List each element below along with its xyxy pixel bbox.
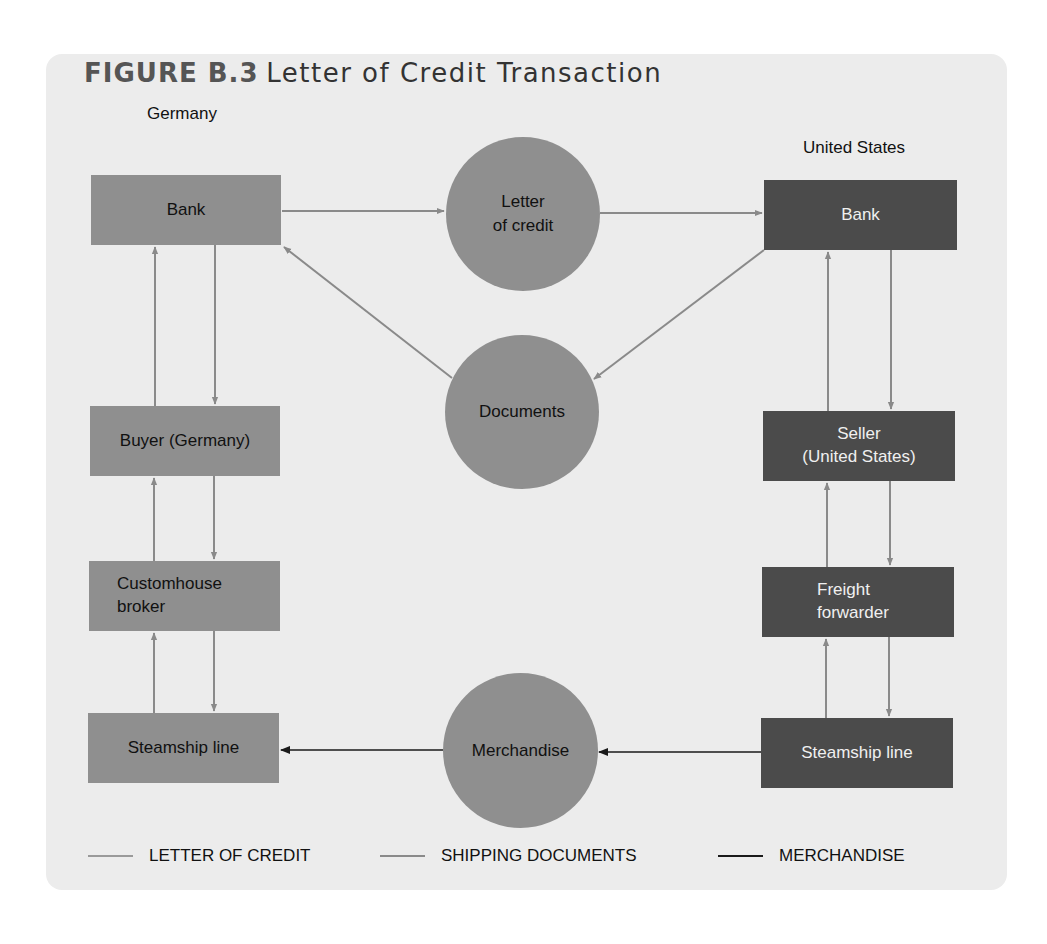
node-freight-forwarder-line1: Freight	[817, 579, 889, 602]
legend-letter-of-credit: LETTER OF CREDIT	[88, 846, 311, 866]
node-us-bank: Bank	[764, 180, 957, 250]
legend-shipping-documents: SHIPPING DOCUMENTS	[380, 846, 637, 866]
legend-line-shipping-documents	[380, 855, 425, 857]
circle-letter-of-credit: Letter of credit	[446, 137, 600, 291]
legend-label-letter-of-credit: LETTER OF CREDIT	[149, 846, 311, 866]
node-us-steamship-line: Steamship line	[761, 718, 953, 788]
legend-merchandise: MERCHANDISE	[718, 846, 905, 866]
arrow-documents-to-germany-bank	[284, 247, 452, 378]
circle-documents-label: Documents	[479, 400, 565, 424]
circle-merchandise: Merchandise	[443, 673, 598, 828]
legend-line-letter-of-credit	[88, 855, 133, 857]
circle-letter-of-credit-line2: of credit	[493, 214, 553, 238]
node-germany-steamship-line: Steamship line	[88, 713, 279, 783]
node-germany-bank-label: Bank	[167, 199, 206, 222]
circle-letter-of-credit-line1: Letter	[493, 190, 553, 214]
circle-documents: Documents	[445, 335, 599, 489]
legend-label-merchandise: MERCHANDISE	[779, 846, 905, 866]
node-freight-forwarder: Freight forwarder	[762, 567, 954, 637]
node-customhouse-broker-line1: Customhouse	[117, 573, 222, 596]
legend-label-shipping-documents: SHIPPING DOCUMENTS	[441, 846, 637, 866]
circle-merchandise-label: Merchandise	[472, 739, 569, 763]
node-buyer-label: Buyer (Germany)	[120, 430, 250, 453]
node-seller-line1: Seller	[802, 423, 915, 446]
node-seller-united-states: Seller (United States)	[763, 411, 955, 481]
arrow-us-bank-to-documents	[594, 250, 764, 379]
node-germany-steamship-label: Steamship line	[128, 737, 240, 760]
node-us-steamship-label: Steamship line	[801, 742, 913, 765]
node-germany-bank: Bank	[91, 175, 281, 245]
node-customhouse-broker: Customhouse broker	[89, 561, 280, 631]
node-buyer-germany: Buyer (Germany)	[90, 406, 280, 476]
node-seller-line2: (United States)	[802, 446, 915, 469]
node-customhouse-broker-line2: broker	[117, 596, 222, 619]
legend-line-merchandise	[718, 855, 763, 857]
node-freight-forwarder-line2: forwarder	[817, 602, 889, 625]
node-us-bank-label: Bank	[841, 204, 880, 227]
